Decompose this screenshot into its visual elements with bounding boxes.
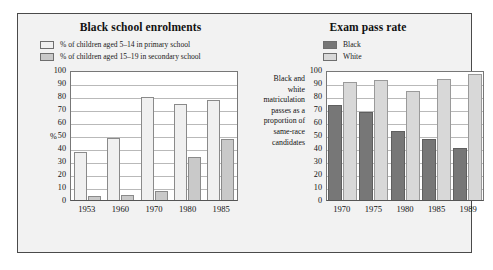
y-tick-label: 60 [314,119,322,127]
legend-swatch-secondary-icon [40,53,54,61]
right-chart-title: Exam pass rate [263,21,473,33]
y-tick-label: 80 [314,93,322,101]
bar [74,152,87,200]
bar [406,91,420,200]
x-tick-label: 1953 [70,204,104,214]
bar [207,100,220,200]
bar [174,104,187,200]
bar [221,139,234,200]
y-tick-label: 80 [58,93,66,101]
y-tick-label: 20 [314,171,322,179]
bar-group [171,72,204,200]
bar [437,79,451,200]
bar [359,112,373,200]
bar [155,191,168,200]
y-tick-label: 100 [54,67,66,75]
y-tick-label: 90 [58,80,66,88]
y-tick-label: 0 [318,197,322,205]
x-tick-label: 1970 [137,204,171,214]
bar [468,74,482,200]
bar [107,138,120,200]
left-chart-plot: 0102030405060708090100 % 195319601970198… [50,71,238,219]
bar-group [104,72,137,200]
legend-item-white: White [323,52,362,62]
y-tick-label: 40 [314,145,322,153]
y-tick-label: 30 [58,158,66,166]
bar [328,105,342,200]
bar-group [452,72,483,200]
legend-item-black: Black [323,40,362,50]
bar [88,196,101,200]
left-plot-area [70,71,238,201]
y-tick-label: 40 [58,145,66,153]
legend-item-secondary: % of children aged 15–19 in secondary sc… [40,52,201,62]
panel-black-school-enrolments: Black school enrolments % of children ag… [18,14,263,252]
legend-label-black: Black [343,40,361,50]
x-tick-label: 1970 [326,204,358,214]
bar-group [421,72,452,200]
bar [188,157,201,200]
bar [343,82,357,200]
bar-group [358,72,389,200]
bar-group [204,72,237,200]
chart-figure: Black school enrolments % of children ag… [17,13,472,253]
bar [422,139,436,200]
left-x-axis-labels: 19531960197019801985 [70,204,238,214]
bar [391,131,405,200]
y-tick-label: 30 [314,158,322,166]
y-tick-label: 70 [314,106,322,114]
y-tick-label: 90 [314,80,322,88]
x-tick-label: 1980 [389,204,421,214]
legend-swatch-primary-icon [40,41,54,49]
left-y-axis-unit: % [50,132,57,141]
right-x-axis-labels: 19701975198019851989 [326,204,484,214]
x-tick-label: 1980 [171,204,205,214]
right-chart-legend: Black White [323,40,362,62]
legend-swatch-black-icon [323,41,337,49]
legend-label-primary: % of children aged 5–14 in primary schoo… [60,40,190,50]
right-chart-plot: 0102030405060708090100 19701975198019851… [306,71,484,219]
right-plot-area [326,71,484,201]
y-tick-label: 50 [58,132,66,140]
y-tick-label: 50 [314,132,322,140]
left-chart-legend: % of children aged 5–14 in primary schoo… [40,40,201,62]
bar [453,148,467,200]
bar-group [137,72,170,200]
bar-group [389,72,420,200]
x-tick-label: 1989 [452,204,484,214]
y-tick-label: 100 [310,67,322,75]
bar-group [327,72,358,200]
y-tick-label: 0 [62,197,66,205]
bar [121,195,134,200]
x-tick-label: 1985 [421,204,453,214]
bar [374,80,388,200]
y-tick-label: 10 [58,184,66,192]
y-tick-label: 20 [58,171,66,179]
y-tick-label: 10 [314,184,322,192]
y-tick-label: 60 [58,119,66,127]
x-tick-label: 1960 [104,204,138,214]
x-tick-label: 1975 [358,204,390,214]
right-y-axis: 0102030405060708090100 [306,71,324,201]
legend-swatch-white-icon [323,53,337,61]
right-bar-groups [327,72,483,200]
legend-label-white: White [343,52,362,62]
y-tick-label: 70 [58,106,66,114]
legend-label-secondary: % of children aged 15–19 in secondary sc… [60,52,201,62]
x-tick-label: 1985 [204,204,238,214]
left-bar-groups [71,72,237,200]
right-chart-side-note: Black and white matriculation passes as … [259,74,305,148]
left-chart-title: Black school enrolments [18,21,263,33]
legend-item-primary: % of children aged 5–14 in primary schoo… [40,40,201,50]
bar-group [71,72,104,200]
bar [141,97,154,200]
